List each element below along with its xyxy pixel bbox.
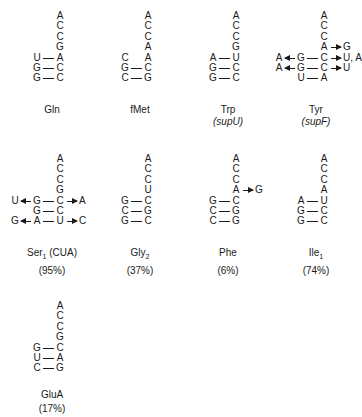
mutation-arrow-icon (331, 47, 341, 48)
trna-name: Ser (27, 247, 43, 258)
mutation-arrow-icon (21, 201, 31, 202)
base-pair-bond (131, 221, 142, 222)
base-pair-bond (307, 68, 318, 69)
nucleotide-3prime: C (319, 21, 329, 31)
nucleotide-5prime: C (32, 363, 42, 373)
base-pair-bond (43, 358, 54, 359)
nucleotide-3prime: C (55, 311, 65, 321)
trna-label: Tyr (271, 104, 361, 115)
base-pair-bond (307, 78, 318, 79)
nucleotide-3prime: C (231, 73, 241, 83)
base-pair-bond (307, 201, 318, 202)
base-pair-bond (131, 201, 142, 202)
mutation-arrow-icon (21, 221, 31, 222)
panel-phe: ACCACGGGCCGPhe(6%) (176, 143, 266, 283)
nucleotide-3prime: A (231, 185, 241, 195)
nucleotide-5prime: A (32, 216, 42, 226)
nucleotide-3prime: C (231, 21, 241, 31)
mutation-target: G (343, 42, 351, 52)
nucleotide-5prime: U (296, 73, 306, 83)
base-pair-bond (219, 58, 230, 59)
mutation-target: U (10, 196, 20, 206)
trna-label: Phe (183, 247, 273, 258)
nucleotide-3prime: G (55, 42, 65, 52)
nucleotide-3prime: A (319, 42, 329, 52)
nucleotide-5prime: G (32, 73, 42, 83)
base-pair-bond (43, 348, 54, 349)
efficiency-percent: (95%) (7, 265, 97, 276)
trna-name: Gly (131, 247, 146, 258)
nucleotide-3prime: U (55, 216, 65, 226)
base-pair-bond (219, 201, 230, 202)
nucleotide-3prime: C (55, 21, 65, 31)
trna-name: Trp (221, 104, 236, 115)
nucleotide-3prime: G (143, 73, 153, 83)
nucleotide-3prime: G (55, 363, 65, 373)
panel-glua: ACCGCAGGUCGluA(17%) (0, 290, 90, 417)
base-pair-bond (43, 368, 54, 369)
nucleotide-3prime: C (55, 164, 65, 174)
nucleotide-3prime: A (319, 185, 329, 195)
mutation-arrow-icon (285, 58, 295, 59)
mutation-target: A (79, 196, 86, 206)
base-pair-bond (219, 68, 230, 69)
nucleotide-3prime: C (319, 164, 329, 174)
trna-label: Gln (7, 104, 97, 115)
nucleotide-3prime: U (143, 185, 153, 195)
nucleotide-3prime: C (143, 21, 153, 31)
mutation-arrow-icon (331, 68, 341, 69)
nucleotide-5prime: C (208, 216, 218, 226)
nucleotide-unpaired: C (120, 53, 130, 63)
nucleotide-5prime: C (120, 73, 130, 83)
mutation-arrow-icon (331, 58, 341, 59)
trna-name: Gln (44, 104, 60, 115)
mutation-arrow-icon (67, 221, 77, 222)
nucleotide-3prime: G (231, 216, 241, 226)
nucleotide-3prime: G (231, 42, 241, 52)
base-pair-bond (131, 78, 142, 79)
mutation-arrow-icon (67, 201, 77, 202)
mutation-target: C (79, 216, 86, 226)
panel-tyr: ACCACCAGGUGU, AAUATyr(supF) (264, 0, 354, 140)
nucleotide-3prime: C (55, 73, 65, 83)
nucleotide-3prime: A (319, 73, 329, 83)
base-pair-bond (43, 221, 54, 222)
mutation-arrow-icon (243, 190, 253, 191)
anticodon-label: (CUA) (46, 247, 77, 258)
nucleotide-3prime: A (143, 42, 153, 52)
base-pair-bond (219, 211, 230, 212)
panel-trp: ACCGUCCAGGTrp(supU) (176, 0, 266, 140)
base-pair-bond (131, 68, 142, 69)
nucleotide-3prime: C (143, 164, 153, 174)
trna-label: Ser1 (CUA) (7, 247, 97, 260)
efficiency-percent: (37%) (95, 265, 185, 276)
nucleotide-5prime: G (296, 216, 306, 226)
trna-name: Tyr (309, 104, 323, 115)
panel-gly2: ACCUCGCGCGGly2(37%) (88, 143, 178, 283)
base-pair-bond (307, 211, 318, 212)
panel-ile1: ACCAUCCAGGIle1(74%) (264, 143, 354, 283)
trna-isoacceptor-number: 2 (146, 253, 150, 260)
nucleotide-3prime: C (231, 164, 241, 174)
nucleotide-5prime: G (208, 73, 218, 83)
panel-gln: ACCGACCUGGGln (0, 0, 90, 140)
nucleotide-3prime: C (319, 216, 329, 226)
trna-label: fMet (95, 104, 185, 115)
mutation-target: U (343, 63, 350, 73)
mutation-arrow-icon (285, 68, 295, 69)
trna-label: Gly2 (95, 247, 185, 260)
trna-name: Ile (309, 247, 320, 258)
trna-name: Phe (219, 247, 237, 258)
base-pair-bond (43, 78, 54, 79)
nucleotide-3prime: G (55, 332, 65, 342)
nucleotide-3prime: C (143, 216, 153, 226)
base-pair-bond (43, 211, 54, 212)
base-pair-bond (307, 221, 318, 222)
base-pair-bond (307, 58, 318, 59)
trna-name: fMet (130, 104, 149, 115)
base-pair-bond (131, 211, 142, 212)
trna-isoacceptor-number: 1 (319, 253, 323, 260)
suppressor-gene-label: (supU) (183, 116, 273, 127)
trna-name: GluA (41, 389, 63, 400)
panel-ser1: ACCGCCUGGAUAGCSer1 (CUA)(95%) (0, 143, 90, 283)
